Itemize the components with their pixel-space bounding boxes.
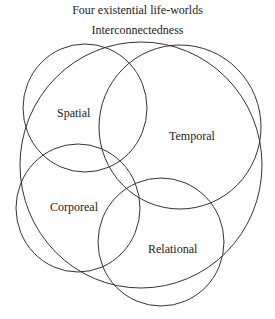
- temporal-label: Temporal: [169, 129, 215, 143]
- corporeal-label: Corporeal: [50, 200, 99, 214]
- venn-diagram: Spatial Temporal Corporeal Relational: [0, 0, 275, 319]
- spatial-label: Spatial: [57, 106, 91, 120]
- temporal-circle: [99, 45, 261, 209]
- relational-label: Relational: [148, 242, 198, 256]
